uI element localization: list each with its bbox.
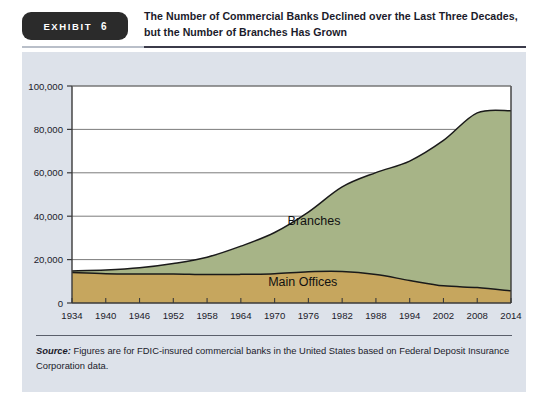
x-tick-label: 1958 xyxy=(196,310,217,321)
x-tick-label: 1970 xyxy=(264,310,285,321)
y-tick-label: 100,000 xyxy=(28,81,63,92)
badge-underline-rule xyxy=(22,46,144,48)
stacked-area-chart: 020,00040,00060,00080,000100,000 1934194… xyxy=(22,52,526,337)
x-tick-label: 1988 xyxy=(365,310,386,321)
chart-canvas: 020,00040,00060,00080,000100,000 1934194… xyxy=(22,52,526,337)
y-tick-label: 0 xyxy=(58,298,63,309)
x-tick-label: 1994 xyxy=(399,310,421,321)
y-tick-label: 40,000 xyxy=(34,211,63,222)
x-tick-label: 1982 xyxy=(331,310,352,321)
y-tick-label: 20,000 xyxy=(34,254,63,265)
x-tick-label: 1976 xyxy=(298,310,319,321)
exhibit-badge-word: EXHIBIT xyxy=(43,21,92,32)
y-tick-label: 80,000 xyxy=(34,124,63,135)
series-inline-label: Branches xyxy=(288,214,341,228)
x-tick-label: 2008 xyxy=(467,310,488,321)
x-tick-label: 1952 xyxy=(163,310,184,321)
x-axis-tick-labels: 1934194019461952195819641970197619821988… xyxy=(61,310,522,321)
exhibit-panel: 020,00040,00060,00080,000100,000 1934194… xyxy=(22,52,526,392)
exhibit-badge-number: 6 xyxy=(101,21,107,32)
y-tick-label: 60,000 xyxy=(34,167,63,178)
x-tick-label: 1940 xyxy=(95,310,116,321)
source-label: Source: xyxy=(36,345,71,356)
source-note: Source: Figures are for FDIC-insured com… xyxy=(36,344,514,373)
exhibit-title: The Number of Commercial Banks Declined … xyxy=(144,9,526,40)
x-tick-label: 1934 xyxy=(61,310,83,321)
exhibit-badge: EXHIBIT 6 xyxy=(22,12,128,40)
x-tick-label: 2014 xyxy=(500,310,522,321)
source-divider xyxy=(36,335,512,336)
y-axis-tick-labels: 020,00040,00060,00080,000100,000 xyxy=(28,81,63,309)
header-divider-rule xyxy=(144,46,526,48)
series-inline-label: Main Offices xyxy=(268,275,337,289)
source-text: Figures are for FDIC-insured commercial … xyxy=(36,345,509,371)
exhibit-header: EXHIBIT 6 The Number of Commercial Banks… xyxy=(0,0,540,52)
x-tick-label: 1946 xyxy=(129,310,150,321)
x-tick-label: 2002 xyxy=(433,310,454,321)
x-tick-label: 1964 xyxy=(230,310,252,321)
